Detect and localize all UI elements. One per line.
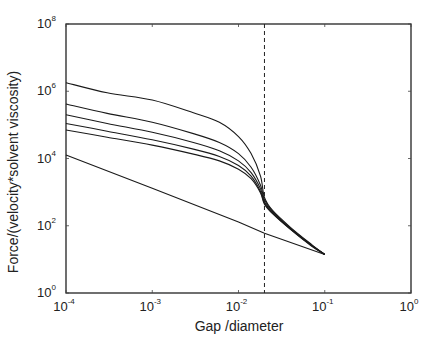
series-curve-2 (66, 104, 325, 255)
x-axis-tick-labels: 10-410-310-210-1100 (53, 297, 419, 314)
plot-area (66, 24, 411, 293)
y-tick-label: 104 (37, 149, 56, 166)
y-tick-label: 102 (37, 216, 56, 233)
x-tick-label: 10-1 (312, 297, 334, 314)
series-curve-3 (66, 115, 325, 255)
plot-frame (66, 24, 411, 293)
y-tick-label: 106 (37, 81, 56, 98)
axis-ticks (66, 24, 411, 293)
y-axis-label: Force/(velocity*solvent viscosity) (5, 71, 21, 273)
series-lines (66, 83, 325, 255)
x-tick-label: 10-3 (139, 297, 161, 314)
y-tick-label: 108 (37, 14, 56, 31)
x-tick-label: 10-4 (53, 297, 75, 314)
series-asymptote-1/h (66, 155, 325, 255)
chart: 10-410-310-210-1100 100102104106108 Gap … (0, 0, 434, 346)
series-curve-1 (66, 83, 325, 255)
series-curve-5 (66, 130, 325, 254)
x-tick-label: 10-2 (226, 297, 248, 314)
x-tick-label: 100 (400, 297, 419, 314)
y-tick-label: 100 (37, 283, 56, 300)
y-axis-tick-labels: 100102104106108 (37, 14, 56, 300)
x-axis-label: Gap /diameter (195, 318, 284, 334)
